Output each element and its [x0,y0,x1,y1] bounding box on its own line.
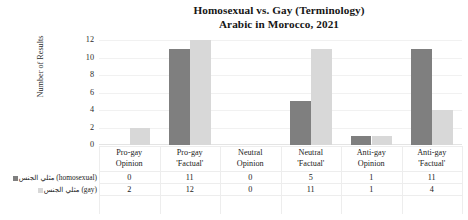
table-value-s2-cat3: 0 [220,185,281,194]
category-label-line1: Anti-gay [341,148,402,159]
data-table: Pro-gayOpinionPro-gay'Factual'NeutralOpi… [0,146,468,218]
table-value-s2-cat6: 4 [402,185,463,194]
category-label-line1: Neutral [281,148,342,159]
y-axis-tick-2: 2 [90,124,94,132]
chart-container: Homosexual vs. Gay (Terminology) Arabic … [0,0,468,220]
category-label-line1: Anti-gay [402,148,463,159]
y-axis-tick-4: 4 [90,106,94,114]
table-category-6: Anti-gay'Factual' [402,148,463,169]
gridline-4 [99,110,462,111]
chart-title: Homosexual vs. Gay (Terminology) Arabic … [90,4,468,31]
bar-series2-cat2 [190,40,211,145]
table-hline-2 [99,183,462,184]
gridline-6 [99,93,462,94]
table-category-2: Pro-gay'Factual' [160,148,221,169]
table-value-s1-cat4: 5 [281,173,342,182]
y-axis-tick-labels: 121086420 [72,40,96,145]
bar-series1-cat5 [351,136,372,145]
table-category-5: Anti-gayOpinion [341,148,402,169]
y-axis-tick-10: 10 [86,54,94,62]
y-axis-title: Number of Results [36,7,45,127]
y-axis-tick-12: 12 [86,36,94,44]
legend-label-english-series2: (gay) [80,185,97,194]
bar-series1-cat2 [169,49,190,145]
table-hline-1 [99,171,462,172]
table-value-s1-cat5: 1 [341,173,402,182]
table-value-s2-cat4: 11 [281,185,342,194]
category-label-line2: 'Factual' [281,159,342,170]
table-category-4: Neutral'Factual' [281,148,342,169]
gridline-8 [99,75,462,76]
bar-series1-cat6 [411,49,432,145]
legend-label-english-series1: (homosexual) [55,173,98,182]
table-category-3: NeutralOpinion [220,148,281,169]
category-label-line2: Opinion [341,159,402,170]
category-label-line2: Opinion [99,159,160,170]
table-value-s2-cat1: 2 [99,185,160,194]
legend-swatch-icon-series2 [38,188,43,193]
table-hline-0 [99,146,462,147]
axis-baseline [99,144,462,145]
bar-series2-cat5 [372,136,393,145]
table-value-s2-cat5: 1 [341,185,402,194]
table-hline-3 [99,195,462,196]
legend-item-series2[interactable]: مثلي الجنس (gay) [0,185,99,194]
category-label-line2: 'Factual' [160,159,221,170]
category-label-line1: Neutral [220,148,281,159]
table-value-s1-cat3: 0 [220,173,281,182]
table-value-s1-cat6: 11 [402,173,463,182]
table-vline-6 [462,146,463,214]
chart-title-line1: Homosexual vs. Gay (Terminology) [193,4,364,16]
legend-item-series1[interactable]: مثلي الجنس (homosexual) [0,173,99,182]
category-label-line2: 'Factual' [402,159,463,170]
table-value-s1-cat1: 0 [99,173,160,182]
bar-series2-cat1 [130,128,151,146]
gridline-2 [99,128,462,129]
chart-title-line2: Arabic in Morocco, 2021 [90,18,468,32]
table-value-s2-cat2: 12 [160,185,221,194]
plot-area [99,40,462,145]
category-label-line1: Pro-gay [160,148,221,159]
table-value-s1-cat2: 11 [160,173,221,182]
y-axis-tick-8: 8 [90,71,94,79]
gridline-12 [99,40,462,41]
table-category-1: Pro-gayOpinion [99,148,160,169]
category-label-line1: Pro-gay [99,148,160,159]
bar-series2-cat4 [311,49,332,145]
legend-label-arabic-series2: مثلي الجنس [44,186,80,194]
gridline-10 [99,58,462,59]
category-label-line2: Opinion [220,159,281,170]
bar-series1-cat4 [290,101,311,145]
bar-series2-cat6 [432,110,453,145]
y-axis-tick-6: 6 [90,89,94,97]
legend-swatch-icon-series1 [13,176,18,181]
legend-label-arabic-series1: مثلي الجنس [19,174,55,182]
